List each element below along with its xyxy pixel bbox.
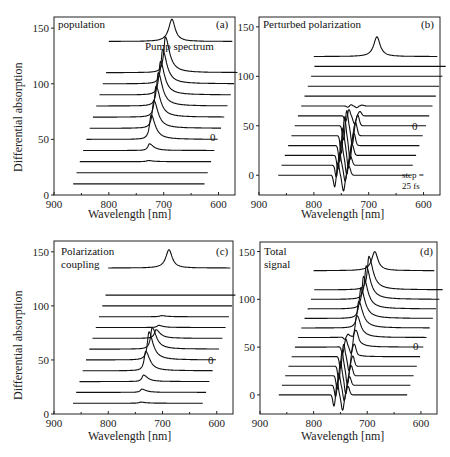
x-tick-label: 800 [100,417,117,429]
panel-d-title-line2: signal [264,258,290,270]
x-tick-label: 600 [210,198,227,210]
panel-c-tag: (c) [216,245,229,258]
spectrum-trace [76,389,206,392]
x-tick-label: 800 [305,417,322,429]
spectrum-trace [83,144,214,151]
y-tick-label: 50 [38,354,50,366]
x-tick-label: 700 [359,417,376,429]
spectrum-trace [291,117,422,160]
y-tick-label: 150 [239,246,256,258]
y-tick-label: 100 [33,300,50,312]
x-axis-label-c: Wavelength [nm] [88,429,171,443]
spectrum-trace [93,330,223,339]
pump-spectrum-curve [314,37,438,57]
panel-a-title: population [58,18,106,30]
panel-d-title-line1: Total [264,245,286,257]
step-label-2: 25 fs [402,181,420,191]
panel-c-title-line1: Polarization [61,245,115,257]
y-tick-label: 150 [33,246,50,258]
y-tick-label: 100 [239,293,256,305]
zero-delay-label-a: 0 [210,131,216,143]
x-tick-label: 700 [155,198,172,210]
y-axis-label-a: Differential absorption [11,63,25,172]
spectrum-trace [308,276,436,309]
panel-c-title-line2: coupling [61,258,100,270]
spectrum-trace [80,161,211,162]
pump-spectrum-curve [108,250,230,268]
y-tick-label: 100 [33,78,50,90]
spectrum-trace [295,330,423,353]
spectrum-trace [86,115,217,139]
spectrum-trace [80,375,210,382]
panel-d: Total signal (d) 0 Wavelength [nm] 90080… [239,242,443,443]
panel-a: population (a) Pump spectrum 0 Wavelengt… [11,17,237,221]
spectrum-trace [73,402,203,403]
pump-spectrum-label: Pump spectrum [145,40,214,52]
pump-spectrum-curve [314,252,435,271]
panel-b-title: Perturbed polarization [263,18,362,30]
spectra-c [73,250,235,404]
spectrum-trace [96,73,227,106]
spectrum-trace [96,325,226,327]
x-tick-label: 600 [413,417,430,429]
x-tick-label: 700 [360,198,377,210]
y-tick-label: 150 [238,21,255,33]
y-tick-label: 0 [44,408,50,420]
x-axis-label-d: Wavelength [nm] [301,429,384,443]
x-tick-label: 900 [252,417,269,429]
spectrum-trace [301,301,429,328]
spectrum-trace [86,332,216,360]
y-tick-label: 150 [33,22,50,34]
x-tick-label: 800 [306,198,323,210]
x-tick-label: 800 [101,198,118,210]
y-tick-label: 50 [38,133,50,145]
panel-d-tag: (d) [420,245,433,258]
y-tick-label: 50 [243,120,255,132]
y-axis-label-c: Differential absorption [11,291,25,400]
spectrum-trace [301,105,432,108]
x-tick-label: 600 [415,198,432,210]
panel-c: Polarization coupling (c) 0 Wavelength [… [11,241,235,443]
panel-a-tag: (a) [216,18,229,31]
y-tick-label: 0 [44,189,50,201]
figure: population (a) Pump spectrum 0 Wavelengt… [0,0,450,457]
spectrum-trace [100,62,231,95]
x-tick-label: 600 [208,417,225,429]
panel-b: Perturbed polarization (b) 0 step = 25 f… [238,17,446,221]
y-tick-label: 100 [238,70,255,82]
x-tick-label: 700 [154,417,171,429]
y-tick-label: 0 [250,389,256,401]
spectrum-trace [298,110,429,124]
y-tick-label: 50 [244,341,256,353]
spectrum-trace [83,351,213,370]
spectrum-trace [99,316,229,317]
pump-spectrum-curve [109,19,233,41]
y-tick-label: 0 [249,169,255,181]
spectrum-trace [103,49,234,83]
spectra-b [278,37,446,191]
panel-b-tag: (b) [421,18,434,31]
zero-delay-label-d: 0 [413,340,419,352]
x-tick-label: 900 [251,198,268,210]
spectra-d [279,252,443,411]
